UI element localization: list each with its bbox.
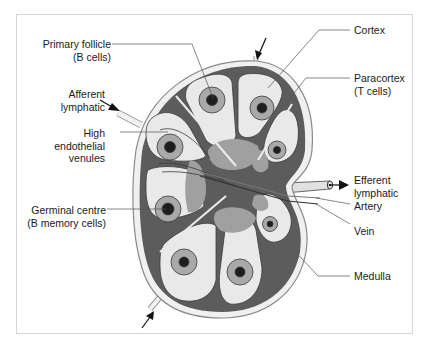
label-germinal-centre: Germinal centre (B memory cells) (27, 204, 106, 229)
label-high-endothelial-venules: High endothelial venules (54, 127, 105, 165)
afferent-vessel-left (118, 113, 141, 125)
label-paracortex: Paracortex (T cells) (354, 72, 405, 97)
label-primary-follicle: Primary follicle (B cells) (43, 38, 111, 63)
label-cortex: Cortex (354, 24, 385, 37)
label-artery: Artery (354, 200, 382, 213)
label-afferent-lymphatic: Afferent lymphatic (61, 88, 105, 113)
label-medulla: Medulla (354, 270, 391, 283)
label-vein: Vein (354, 225, 374, 238)
label-efferent-lymphatic: Efferent lymphatic (354, 174, 398, 199)
afferent-vessel-bottom (150, 297, 160, 309)
